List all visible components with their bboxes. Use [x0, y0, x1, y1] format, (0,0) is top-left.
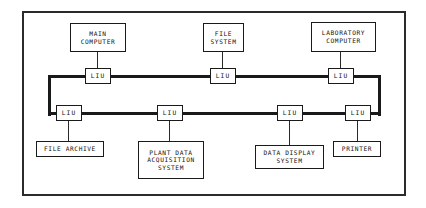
device-box-main-computer[interactable]: MAINCOMPUTER	[70, 23, 126, 52]
liu-label: LIU	[283, 109, 297, 117]
lead-plant-data-acquisition-system	[169, 121, 170, 142]
bus-left-riser	[48, 75, 51, 116]
lead-file-system	[222, 52, 223, 69]
device-box-file-system[interactable]: FILESYSTEM	[203, 23, 244, 52]
liu-label: LIU	[163, 109, 177, 117]
device-label-line: COMPUTER	[326, 37, 361, 45]
device-label-line: ACQUISITION	[147, 156, 195, 164]
bus-bottom-run	[48, 112, 381, 115]
device-label-line: FILE ARCHIVE	[44, 145, 96, 153]
liu-plant-data[interactable]: LIU	[157, 105, 183, 121]
liu-label: LIU	[91, 72, 105, 80]
device-label-line: PRINTER	[342, 145, 372, 153]
device-label-line: SYSTEM	[211, 38, 237, 46]
liu-data-display[interactable]: LIU	[277, 105, 303, 121]
device-box-file-archive[interactable]: FILE ARCHIVE	[36, 141, 104, 157]
liu-laboratory-computer[interactable]: LIU	[328, 68, 354, 84]
liu-main-computer[interactable]: LIU	[85, 68, 111, 84]
device-box-printer[interactable]: PRINTER	[333, 141, 381, 157]
device-label-line: MAIN	[89, 30, 106, 38]
liu-file-archive[interactable]: LIU	[56, 105, 82, 121]
diagram-canvas: MAINCOMPUTERFILESYSTEMLABORATORYCOMPUTER…	[0, 0, 426, 208]
liu-printer[interactable]: LIU	[345, 105, 371, 121]
device-label-line: SYSTEM	[158, 164, 184, 172]
lead-laboratory-computer	[340, 52, 341, 69]
device-label-line: PLANT DATA	[149, 149, 192, 157]
lead-main-computer	[97, 52, 98, 69]
liu-label: LIU	[216, 72, 230, 80]
liu-label: LIU	[334, 72, 348, 80]
device-box-data-display-system[interactable]: DATA DISPLAYSYSTEM	[255, 145, 324, 169]
device-box-plant-data-acquisition-system[interactable]: PLANT DATAACQUISITIONSYSTEM	[138, 141, 204, 179]
device-label-line: LABORATORY	[322, 29, 365, 37]
device-label-line: FILE	[215, 30, 232, 38]
device-label-line: DATA DISPLAY	[264, 149, 316, 157]
device-label-line: SYSTEM	[277, 157, 303, 165]
device-label-line: COMPUTER	[81, 38, 116, 46]
lead-printer	[357, 121, 358, 142]
liu-file-system[interactable]: LIU	[210, 68, 236, 84]
lead-file-archive	[68, 121, 69, 142]
liu-label: LIU	[351, 109, 365, 117]
bus-right-riser	[378, 75, 381, 116]
lead-data-display-system	[289, 121, 290, 146]
device-box-laboratory-computer[interactable]: LABORATORYCOMPUTER	[311, 22, 376, 52]
liu-label: LIU	[62, 109, 76, 117]
